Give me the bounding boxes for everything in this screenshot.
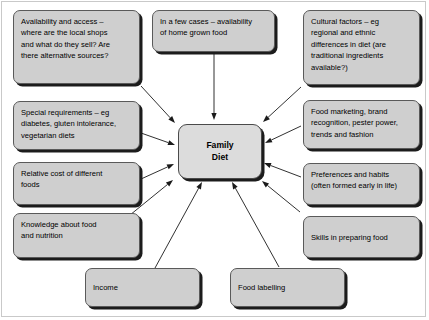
node-preferences-and-habits[interactable]: Preferences and habits (often formed ear… — [303, 163, 420, 205]
arrow-income-to-center — [155, 182, 202, 268]
node-special-requirements[interactable]: Special requirements – eg diabetes, glut… — [13, 101, 140, 150]
node-home-grown-food[interactable]: In a few cases – availability of home gr… — [152, 10, 275, 52]
node-label-income: Income — [93, 282, 118, 293]
node-family-diet[interactable]: Family Diet — [178, 124, 262, 179]
node-label-skills-in-preparing-food: Skills in preparing food — [311, 232, 388, 243]
node-income[interactable]: Income — [85, 268, 200, 307]
node-label-food-marketing: Food marketing, brand recognition, peste… — [311, 106, 412, 140]
node-knowledge-about-food[interactable]: Knowledge about food and nutrition — [13, 213, 140, 258]
node-label-cultural-factors: Cultural factors – eg regional and ethni… — [311, 16, 412, 73]
node-label-relative-cost: Relative cost of different foods — [21, 168, 132, 191]
diagram-canvas: Availability and access – where are the … — [0, 0, 429, 320]
node-availability-and-access[interactable]: Availability and access – where are the … — [13, 10, 140, 84]
node-label-knowledge-about-food: Knowledge about food and nutrition — [21, 219, 132, 242]
node-food-labelling[interactable]: Food labelling — [230, 268, 345, 307]
node-relative-cost[interactable]: Relative cost of different foods — [13, 162, 140, 205]
node-label-home-grown-food: In a few cases – availability of home gr… — [160, 16, 267, 39]
node-cultural-factors[interactable]: Cultural factors – eg regional and ethni… — [303, 10, 420, 85]
arrow-special-to-center — [141, 133, 175, 145]
node-label-preferences-and-habits: Preferences and habits (often formed ear… — [311, 169, 412, 192]
node-label-special-requirements: Special requirements – eg diabetes, glut… — [21, 107, 132, 141]
arrow-preferences-to-center — [264, 163, 301, 177]
node-skills-in-preparing-food[interactable]: Skills in preparing food — [303, 216, 420, 258]
arrow-skills-to-center — [262, 181, 300, 212]
arrow-cultural-to-center — [263, 87, 301, 122]
arrow-marketing-to-center — [265, 126, 301, 143]
node-food-marketing[interactable]: Food marketing, brand recognition, peste… — [303, 100, 420, 149]
arrow-homegrown-to-center — [211, 54, 216, 120]
arrow-cost-to-center — [141, 164, 174, 179]
arrow-labelling-to-center — [232, 182, 279, 267]
node-label-family-diet: Family Diet — [206, 140, 233, 163]
arrow-availability-to-center — [141, 86, 175, 123]
node-label-food-labelling: Food labelling — [238, 282, 285, 293]
node-label-availability-and-access: Availability and access – where are the … — [21, 16, 132, 62]
